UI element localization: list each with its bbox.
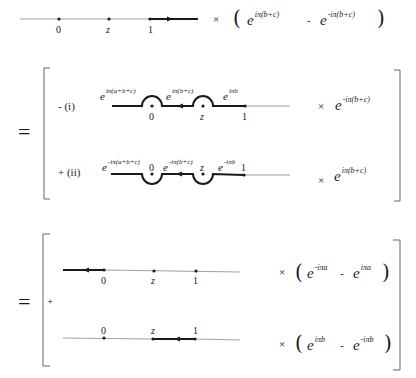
label-0: 0 [149, 163, 154, 173]
times-sign: × [279, 267, 285, 278]
term-exp-minus: e-iπb [353, 337, 374, 353]
term-exp-minus: e-iπa [307, 265, 328, 281]
row0-contour [20, 17, 198, 22]
arrow-left-icon [177, 104, 183, 109]
point-z-dot [107, 17, 110, 20]
label-0: 0 [149, 112, 154, 122]
label-1: 1 [193, 276, 198, 286]
point-0-dot [57, 17, 60, 20]
phase-left: e-iπ(a+b+c) [102, 158, 140, 174]
row-b-contour [63, 336, 240, 341]
phase-left: eiπ(a+b+c) [100, 87, 136, 103]
label-1: 1 [193, 326, 198, 336]
point-1-dot [242, 173, 245, 176]
label-1: 1 [242, 112, 247, 122]
point-1-dot [193, 337, 196, 340]
times-sign: × [279, 339, 285, 350]
label-z: z [106, 25, 110, 35]
paren-open: ( [295, 262, 303, 282]
label-z: z [151, 326, 155, 336]
times-sign: × [318, 101, 324, 112]
arrow-left-icon [174, 337, 180, 342]
row-i-contour [112, 96, 290, 109]
minus-sign: - [307, 15, 311, 26]
row-ii-label: + (ii) [58, 167, 80, 178]
paren-close: ) [384, 333, 392, 353]
point-z-dot [201, 104, 204, 107]
phase-right: e-iπb [218, 158, 235, 174]
factor-term: e-iπ(b+c) [335, 97, 370, 113]
minus-sign: - [340, 268, 344, 279]
times-sign: × [318, 175, 324, 186]
phase-mid: eiπ(b+c) [166, 87, 193, 103]
point-1-dot [194, 269, 197, 272]
minus-sign: - [340, 340, 344, 351]
point-1-dot [148, 17, 151, 20]
point-0-dot [102, 336, 105, 339]
point-0-dot [150, 104, 153, 107]
paren-open: ( [233, 8, 241, 28]
label-0: 0 [101, 326, 106, 336]
phase-mid: e-iπ(b+c) [163, 158, 193, 174]
point-1-dot [243, 104, 246, 107]
term-exp-plus: eiπb [307, 337, 325, 353]
paren-open: ( [295, 333, 303, 353]
term-exp-plus: eiπ(b+c) [247, 12, 279, 28]
arrow-right-icon [167, 17, 173, 22]
label-0: 0 [56, 25, 61, 35]
row-i-label: - (i) [58, 101, 75, 112]
point-z-dot [151, 337, 154, 340]
equals-sign: = [18, 291, 30, 313]
equals-sign: = [18, 121, 30, 143]
label-1: 1 [241, 163, 246, 173]
paren-close: ) [377, 8, 385, 28]
plus-sign: + [47, 296, 53, 307]
term-exp-plus: eiπa [353, 265, 371, 281]
factor-term: eiπ(b+c) [334, 168, 366, 184]
arrow-left-icon [83, 268, 89, 273]
row-a-contour [63, 268, 240, 273]
bracket-block2 [43, 234, 400, 370]
term-exp-minus: e-iπ(b+c) [320, 12, 355, 28]
paren-close: ) [382, 262, 390, 282]
label-0: 0 [101, 276, 106, 286]
phase-right: eiπb [223, 87, 238, 103]
point-z-dot [152, 269, 155, 272]
times-sign: × [213, 14, 219, 25]
point-0-dot [102, 268, 105, 271]
label-z: z [200, 163, 204, 173]
label-1: 1 [148, 25, 153, 35]
contour-diagram [0, 0, 416, 378]
label-z: z [200, 112, 204, 122]
label-z: z [151, 276, 155, 286]
